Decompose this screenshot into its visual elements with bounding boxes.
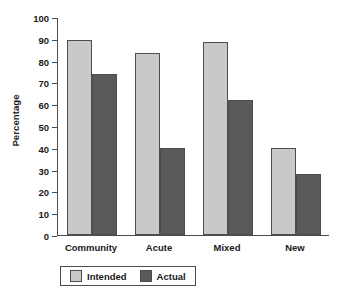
- bar-intended-acute: [135, 53, 160, 235]
- legend-swatch-actual: [140, 270, 152, 282]
- x-axis-label-mixed: Mixed: [214, 242, 241, 253]
- y-axis-tick-label: 50: [38, 122, 49, 133]
- y-axis-tick: [52, 62, 57, 63]
- bar-actual-mixed: [228, 100, 253, 235]
- y-axis-tick-label: 10: [38, 209, 49, 220]
- bar-group: [67, 18, 117, 235]
- x-axis-label-new: New: [285, 242, 305, 253]
- y-axis-title-text: Percentage: [10, 94, 21, 146]
- bar-group: [135, 18, 185, 235]
- legend: IntendedActual: [60, 266, 196, 286]
- bar-actual-acute: [160, 148, 185, 235]
- y-axis-tick-label: 100: [33, 13, 49, 24]
- bar-actual-community: [92, 74, 117, 235]
- y-axis-tick-label: 90: [38, 34, 49, 45]
- bar-intended-community: [67, 40, 92, 235]
- y-axis-tick-label: 30: [38, 165, 49, 176]
- plot-area: 0102030405060708090100: [57, 18, 329, 236]
- y-axis-tick: [52, 40, 57, 41]
- y-axis-tick: [52, 18, 57, 19]
- bars-layer: [58, 18, 329, 235]
- bar-group: [271, 18, 321, 235]
- bar-chart: Percentage 0102030405060708090100 Commun…: [0, 0, 350, 301]
- y-axis-tick: [52, 214, 57, 215]
- legend-item-actual: Actual: [140, 270, 186, 282]
- y-axis-tick-label: 0: [44, 231, 49, 242]
- y-axis-tick: [52, 236, 57, 237]
- legend-item-intended: Intended: [70, 270, 127, 282]
- bar-intended-mixed: [203, 42, 228, 235]
- x-axis-label-acute: Acute: [146, 242, 172, 253]
- legend-label-intended: Intended: [87, 271, 127, 282]
- y-axis-tick: [52, 149, 57, 150]
- y-axis-tick: [52, 105, 57, 106]
- legend-swatch-intended: [70, 270, 82, 282]
- y-axis-tick: [52, 192, 57, 193]
- bar-actual-new: [296, 174, 321, 235]
- y-axis-tick-label: 20: [38, 187, 49, 198]
- y-axis-tick-label: 60: [38, 100, 49, 111]
- y-axis-tick-label: 40: [38, 143, 49, 154]
- y-axis-title: Percentage: [4, 0, 26, 240]
- y-axis-tick: [52, 171, 57, 172]
- legend-label-actual: Actual: [157, 271, 186, 282]
- x-axis-label-community: Community: [65, 242, 117, 253]
- y-axis-tick: [52, 127, 57, 128]
- bar-intended-new: [271, 148, 296, 235]
- bar-group: [203, 18, 253, 235]
- y-axis-tick: [52, 83, 57, 84]
- y-axis-tick-label: 70: [38, 78, 49, 89]
- y-axis-tick-label: 80: [38, 56, 49, 67]
